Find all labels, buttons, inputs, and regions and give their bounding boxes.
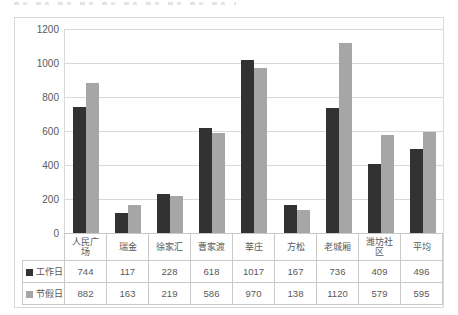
- series-legend-cell: 节假日: [23, 283, 65, 305]
- bar-工作日-潍坊社区: [368, 164, 381, 234]
- value-cell: 882: [65, 283, 107, 305]
- bar-group-3: [149, 29, 191, 233]
- category-label: 曹家渡: [191, 234, 233, 261]
- y-tick-label: 400: [15, 160, 59, 171]
- series-name: 工作日: [36, 267, 63, 277]
- category-label: 瑞金: [107, 234, 149, 261]
- value-cell: 228: [149, 261, 191, 283]
- bar-group-7: [318, 29, 360, 233]
- value-cell: 736: [317, 261, 359, 283]
- cropped-caption-remnant: [14, 2, 236, 5]
- bar-工作日-瑞金: [115, 213, 128, 233]
- category-label: 平均: [401, 234, 443, 261]
- category-label: 莘庄: [233, 234, 275, 261]
- bar-节假日-莘庄: [254, 68, 267, 233]
- y-tick-label: 200: [15, 194, 59, 205]
- value-cell: 219: [149, 283, 191, 305]
- value-cell: 970: [233, 283, 275, 305]
- bar-group-1: [65, 29, 107, 233]
- bar-节假日-曹家渡: [212, 133, 225, 233]
- value-cell: 163: [107, 283, 149, 305]
- value-cell: 1017: [233, 261, 275, 283]
- category-label: 潍坊社区: [359, 234, 401, 261]
- value-cell: 409: [359, 261, 401, 283]
- legend-marker-icon: [26, 269, 33, 276]
- bar-group-9: [402, 29, 444, 233]
- bar-工作日-方松: [284, 205, 297, 233]
- value-cell: 1120: [317, 283, 359, 305]
- value-cell: 586: [191, 283, 233, 305]
- plot-area: [64, 29, 444, 233]
- series-row-节假日: 节假日8821632195869701381120579595: [23, 283, 443, 305]
- value-cell: 138: [275, 283, 317, 305]
- bar-节假日-老城厢: [339, 43, 352, 233]
- category-label: 老城厢: [317, 234, 359, 261]
- bar-工作日-人民广场: [73, 107, 86, 234]
- category-label: 徐家汇: [149, 234, 191, 261]
- y-tick-label: 800: [15, 92, 59, 103]
- bar-节假日-方松: [297, 210, 310, 234]
- value-cell: 117: [107, 261, 149, 283]
- bar-group-8: [360, 29, 402, 233]
- bar-工作日-莘庄: [241, 60, 254, 233]
- column-chart: 020040060080010001200 人民广场瑞金徐家汇曹家渡莘庄方松老城…: [14, 17, 444, 308]
- bar-工作日-老城厢: [326, 108, 339, 233]
- series-name: 节假日: [36, 289, 63, 299]
- bar-工作日-徐家汇: [157, 194, 170, 233]
- y-tick-label: 1200: [15, 24, 59, 35]
- value-cell: 595: [401, 283, 443, 305]
- bar-group-6: [276, 29, 318, 233]
- value-cell: 618: [191, 261, 233, 283]
- category-label: 方松: [275, 234, 317, 261]
- category-label: 人民广场: [65, 234, 107, 261]
- bar-工作日-曹家渡: [199, 128, 212, 233]
- value-cell: 744: [65, 261, 107, 283]
- bar-节假日-潍坊社区: [381, 135, 394, 233]
- table-corner-cell: [23, 234, 65, 261]
- value-cell: 167: [275, 261, 317, 283]
- bar-节假日-徐家汇: [170, 196, 183, 233]
- page: 020040060080010001200 人民广场瑞金徐家汇曹家渡莘庄方松老城…: [0, 0, 458, 315]
- bar-group-2: [107, 29, 149, 233]
- series-row-工作日: 工作日7441172286181017167736409496: [23, 261, 443, 283]
- legend-marker-icon: [26, 291, 33, 298]
- bar-节假日-瑞金: [128, 205, 141, 233]
- y-tick-label: 1000: [15, 58, 59, 69]
- category-header-row: 人民广场瑞金徐家汇曹家渡莘庄方松老城厢潍坊社区平均: [23, 234, 443, 261]
- value-cell: 579: [359, 283, 401, 305]
- bar-节假日-平均: [423, 132, 436, 233]
- bar-工作日-平均: [410, 149, 423, 233]
- bar-group-5: [233, 29, 275, 233]
- y-tick-label: 600: [15, 126, 59, 137]
- value-cell: 496: [401, 261, 443, 283]
- bar-group-4: [191, 29, 233, 233]
- bar-节假日-人民广场: [86, 83, 99, 233]
- series-legend-cell: 工作日: [23, 261, 65, 283]
- data-table: 人民广场瑞金徐家汇曹家渡莘庄方松老城厢潍坊社区平均工作日744117228618…: [22, 233, 443, 305]
